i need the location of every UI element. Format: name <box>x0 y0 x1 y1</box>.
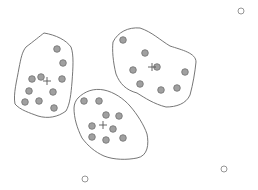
data-point <box>51 105 58 112</box>
cluster-centroids <box>43 63 156 129</box>
data-point <box>182 69 189 76</box>
outlier-point <box>221 166 227 172</box>
data-point <box>96 98 103 105</box>
data-point <box>36 98 43 105</box>
outlier-point <box>82 176 88 182</box>
data-point <box>38 74 45 81</box>
data-point <box>81 98 88 105</box>
cluster-diagram <box>0 0 258 190</box>
data-point <box>110 126 117 133</box>
outlier-point <box>238 8 244 14</box>
data-point <box>137 81 144 88</box>
data-point <box>89 123 96 130</box>
data-point <box>50 89 57 96</box>
data-point <box>26 88 33 95</box>
data-point <box>116 113 123 120</box>
centroid-cross-icon <box>99 121 107 129</box>
data-point <box>89 134 96 141</box>
data-point <box>103 112 110 119</box>
data-point <box>29 76 36 83</box>
data-point <box>120 37 127 44</box>
data-point <box>22 99 29 106</box>
data-point <box>158 87 165 94</box>
data-point <box>120 135 127 142</box>
data-point <box>103 137 110 144</box>
data-point <box>130 67 137 74</box>
data-point <box>60 60 67 67</box>
data-point <box>59 76 66 83</box>
data-point <box>54 46 61 53</box>
data-point <box>174 85 181 92</box>
data-point <box>142 50 149 57</box>
outlier-points <box>82 8 244 182</box>
